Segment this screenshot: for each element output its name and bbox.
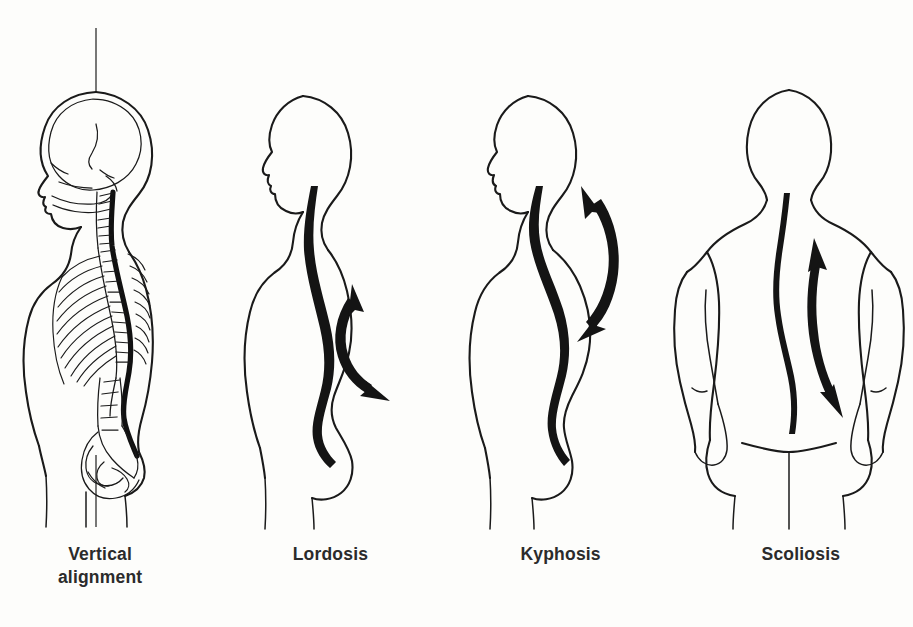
head-face-outline bbox=[38, 92, 96, 229]
leg-front bbox=[490, 478, 491, 529]
torso-side-right bbox=[859, 252, 871, 440]
spine-curve-lordosis bbox=[304, 186, 336, 468]
lumbar-vertebrae bbox=[98, 378, 123, 430]
figure-scoliosis bbox=[674, 90, 904, 529]
leg-back-right bbox=[125, 496, 127, 527]
head-back-outline bbox=[96, 92, 152, 252]
face-profile-outline bbox=[263, 96, 303, 213]
scoliosis-double-arrow-icon bbox=[807, 238, 843, 418]
caption-line-1: Vertical bbox=[68, 543, 132, 566]
hip-front-outline bbox=[260, 448, 265, 478]
caption-line-1: Kyphosis bbox=[520, 543, 600, 566]
elbow-crease-right bbox=[871, 388, 886, 392]
head-right-outline bbox=[789, 90, 831, 200]
cranial-vault bbox=[49, 99, 141, 190]
figure-vertical-alignment bbox=[24, 28, 153, 527]
caption-line-2: alignment bbox=[58, 566, 142, 589]
gluteal-fold bbox=[742, 443, 836, 452]
maxilla bbox=[59, 182, 92, 188]
arm-inner-right bbox=[860, 290, 873, 404]
caption-row: Vertical alignment Lordosis Kyphosis Sco… bbox=[0, 543, 913, 615]
mandible-lower-edge bbox=[53, 205, 97, 213]
rib-cage bbox=[57, 254, 150, 386]
hip-right-outline bbox=[843, 440, 872, 496]
leg-front-left bbox=[46, 476, 47, 527]
spine-curve-scoliosis bbox=[773, 193, 797, 434]
caption-line-1: Scoliosis bbox=[762, 543, 841, 566]
leg-back bbox=[312, 498, 314, 529]
leg-right bbox=[843, 496, 845, 529]
arm-outer-left bbox=[674, 272, 695, 452]
hip-front-outline bbox=[39, 446, 46, 476]
anatomy-illustration: .out { fill:none; stroke:#1a1a1a; stroke… bbox=[0, 0, 913, 627]
lordosis-double-arrow-icon bbox=[335, 284, 390, 401]
figure-lordosis bbox=[245, 96, 390, 529]
spinal-cord bbox=[111, 192, 137, 456]
sternum-line bbox=[53, 277, 64, 384]
elbow-crease-left bbox=[692, 388, 707, 392]
kyphosis-double-arrow-icon bbox=[577, 186, 619, 342]
head-left-outline bbox=[747, 90, 789, 200]
arm-inner-left bbox=[705, 290, 718, 404]
caption-kyphosis: Kyphosis bbox=[447, 543, 675, 615]
torso-front-outline bbox=[24, 227, 81, 446]
caption-line-1: Lordosis bbox=[293, 543, 369, 566]
sphenoid-detail bbox=[89, 124, 97, 169]
leg-back bbox=[532, 498, 534, 529]
hip-left-outline bbox=[706, 440, 735, 496]
caption-vertical-alignment: Vertical alignment bbox=[0, 543, 214, 615]
arm-outer-right bbox=[883, 272, 904, 452]
leg-front bbox=[265, 478, 266, 529]
torso-front-outline bbox=[245, 212, 303, 448]
figure-kyphosis bbox=[470, 96, 619, 529]
caption-lordosis: Lordosis bbox=[216, 543, 444, 615]
illustration-board: .out { fill:none; stroke:#1a1a1a; stroke… bbox=[0, 0, 913, 627]
neck-shoulder-left bbox=[687, 200, 767, 272]
leg-left bbox=[733, 496, 735, 529]
face-profile-outline bbox=[488, 96, 528, 213]
torso-side-left bbox=[707, 252, 719, 440]
hip-front-outline bbox=[485, 448, 490, 478]
caption-scoliosis: Scoliosis bbox=[687, 543, 913, 615]
torso-front-outline bbox=[470, 212, 528, 448]
